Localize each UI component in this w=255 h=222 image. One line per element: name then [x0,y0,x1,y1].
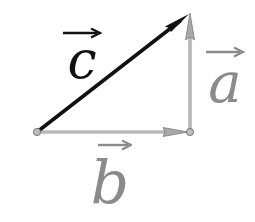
label-c-text: c [60,34,104,86]
vector-b-arrowhead [163,128,188,137]
vector-a [186,13,195,132]
label-a-text: a [203,55,247,111]
corner-point [186,128,193,135]
label-b-text: b [88,152,132,212]
label-vector-a: a [203,47,247,109]
origin-point [33,128,40,135]
vector-b [37,128,188,137]
label-vector-c: c [60,28,104,83]
vector-a-arrowhead [186,13,195,40]
label-vector-b: b [88,140,132,216]
vector-c-shaft [37,21,180,132]
